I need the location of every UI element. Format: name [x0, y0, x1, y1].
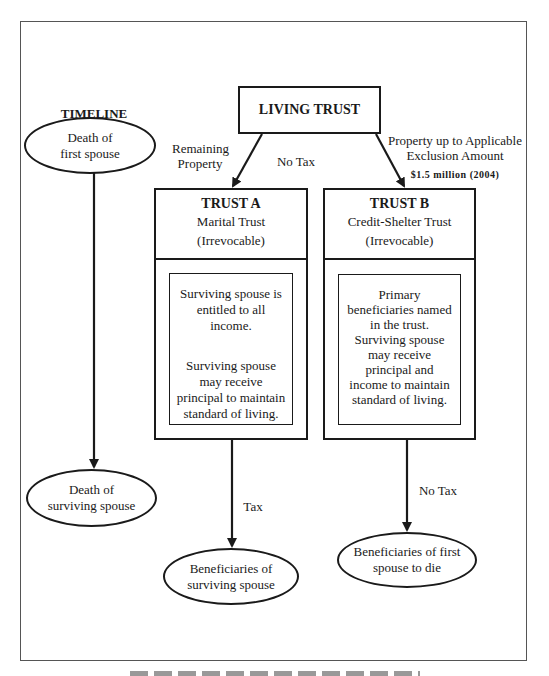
remaining-property-line-1: Remaining [172, 141, 228, 156]
trust-a-body-2-line: standard of living. [170, 406, 292, 422]
timeline-start-ellipse: Death of first spouse [24, 117, 156, 174]
trust-a-body-2-line: principal to maintain [170, 390, 292, 406]
trust-a-body-2-line: may receive [170, 374, 292, 390]
trust-b-title: TRUST B [325, 196, 474, 212]
caption-text-remnant [130, 671, 420, 676]
no-tax-label-bottom: No Tax [413, 483, 463, 498]
arrow-to-trust-a [233, 134, 262, 186]
timeline-start-line-2: first spouse [60, 146, 120, 162]
trust-b-body-line: beneficiaries named [339, 302, 460, 317]
trust-b-box: TRUST B Credit-Shelter Trust (Irrevocabl… [323, 188, 476, 440]
timeline-end-ellipse: Death of surviving spouse [26, 469, 157, 527]
exclusion-line-2: Exclusion Amount [380, 148, 530, 163]
timeline-start-line-1: Death of [60, 130, 120, 146]
trust-a-title: TRUST A [156, 196, 306, 212]
trust-b-outcome-line-2: spouse to die [354, 560, 461, 576]
trust-a-subtitle: Marital Trust [156, 214, 306, 230]
trust-b-body-line: income to maintain [339, 377, 460, 392]
trust-b-body-box: Primary beneficiaries named in the trust… [338, 274, 461, 425]
remaining-property-label: Remaining Property [172, 141, 228, 171]
trust-a-body-2-line: Surviving spouse [170, 358, 292, 374]
living-trust-label: LIVING TRUST [259, 102, 360, 118]
trust-a-body-1-line: Surviving spouse is [170, 286, 292, 302]
trust-b-subtitle: Credit-Shelter Trust [325, 214, 474, 230]
trust-b-outcome-line-1: Beneficiaries of first [354, 544, 461, 560]
remaining-property-line-2: Property [172, 156, 228, 171]
trust-a-beneficiaries-ellipse: Beneficiaries of surviving spouse [163, 548, 299, 605]
trust-b-body-line: standard of living. [339, 392, 460, 407]
no-tax-label-top: No Tax [268, 154, 324, 169]
trust-b-body-line: in the trust. [339, 317, 460, 332]
trust-a-outcome-line-1: Beneficiaries of [187, 561, 275, 577]
exclusion-amount-value: $1.5 million (2004) [395, 167, 515, 182]
trust-a-body-1-line: income. [170, 318, 292, 334]
trust-b-body-line: Primary [339, 287, 460, 302]
trust-b-body-line: Surviving spouse [339, 332, 460, 347]
trust-a-body-box: Surviving spouse is entitled to all inco… [169, 273, 293, 425]
trust-a-box: TRUST A Marital Trust (Irrevocable) Surv… [154, 188, 308, 440]
trust-b-type: (Irrevocable) [325, 233, 474, 249]
trust-a-divider [156, 258, 306, 260]
exclusion-line-1: Property up to Applicable [380, 133, 530, 148]
trust-a-body-1: Surviving spouse is entitled to all inco… [170, 286, 292, 334]
trust-b-body-line: may receive [339, 347, 460, 362]
trust-b-body-line: principal and [339, 362, 460, 377]
trust-b-beneficiaries-ellipse: Beneficiaries of first spouse to die [337, 532, 477, 588]
trust-b-header: TRUST B Credit-Shelter Trust (Irrevocabl… [325, 196, 474, 249]
figure-caption-clipped [0, 668, 549, 676]
exclusion-amount-label: Property up to Applicable Exclusion Amou… [380, 133, 530, 163]
living-trust-box: LIVING TRUST [238, 86, 381, 134]
trust-b-divider [325, 258, 474, 260]
trust-a-body-2: Surviving spouse may receive principal t… [170, 358, 292, 422]
trust-b-body: Primary beneficiaries named in the trust… [339, 287, 460, 407]
trust-a-outcome-line-2: surviving spouse [187, 577, 275, 593]
trust-a-header: TRUST A Marital Trust (Irrevocable) [156, 196, 306, 249]
trust-a-type: (Irrevocable) [156, 233, 306, 249]
trust-a-body-1-line: entitled to all [170, 302, 292, 318]
timeline-end-line-2: surviving spouse [48, 498, 136, 514]
timeline-end-line-1: Death of [48, 482, 136, 498]
tax-label: Tax [238, 499, 268, 514]
